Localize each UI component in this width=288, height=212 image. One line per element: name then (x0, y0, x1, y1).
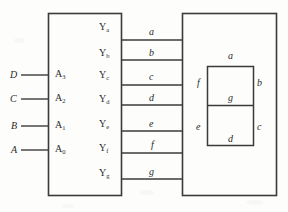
wire-label-b: b (149, 48, 154, 58)
port-yg-sub: g (106, 172, 109, 179)
port-a2-sub: 2 (62, 97, 65, 104)
wire-label-a: a (149, 27, 154, 37)
port-a1-sub: 1 (62, 124, 65, 131)
segment-label-a: a (228, 51, 233, 61)
segment-label-c: c (257, 122, 261, 132)
port-a0-sub: 0 (62, 148, 65, 155)
port-a1: A1 (55, 120, 65, 130)
port-yc-sub: c (106, 74, 109, 81)
wire-label-g: g (149, 167, 154, 177)
port-a2: A2 (55, 93, 65, 103)
port-ye-sub: e (106, 123, 109, 130)
port-a3-sub: 3 (62, 73, 65, 80)
port-yb-sub: b (106, 52, 109, 59)
port-yc: Yc (99, 70, 109, 80)
port-ye: Ye (99, 119, 109, 129)
wire-label-d: d (149, 93, 154, 103)
segment-label-f: f (197, 78, 200, 88)
input-label-d: D (10, 70, 17, 80)
port-yd-sub: d (106, 98, 109, 105)
segment-label-g: g (228, 93, 233, 103)
decoder-block-outline (49, 14, 122, 196)
wire-label-f: f (151, 140, 154, 150)
segment-label-d: d (228, 134, 233, 144)
port-ya: Ya (99, 22, 109, 32)
port-a0: A0 (55, 144, 65, 154)
input-label-b: B (11, 121, 17, 131)
segment-label-e: e (196, 122, 200, 132)
input-label-c: C (10, 94, 17, 104)
port-ya-sub: a (106, 26, 109, 33)
figure-canvas: D C B A A3 A2 A1 A0 Ya Yb Yc Yd Ye Yf Yg… (0, 0, 288, 212)
port-yf: Yf (99, 143, 108, 153)
input-label-a: A (11, 145, 17, 155)
port-yg: Yg (99, 168, 109, 178)
segment-label-b: b (257, 78, 262, 88)
display-block-outline (183, 14, 277, 196)
port-yd: Yd (99, 94, 109, 104)
diagram-lines (0, 0, 288, 212)
wire-label-c: c (149, 72, 153, 82)
port-a3: A3 (55, 69, 65, 79)
wire-label-e: e (149, 119, 153, 129)
port-yf-sub: f (106, 147, 108, 154)
port-yb: Yb (99, 48, 109, 58)
